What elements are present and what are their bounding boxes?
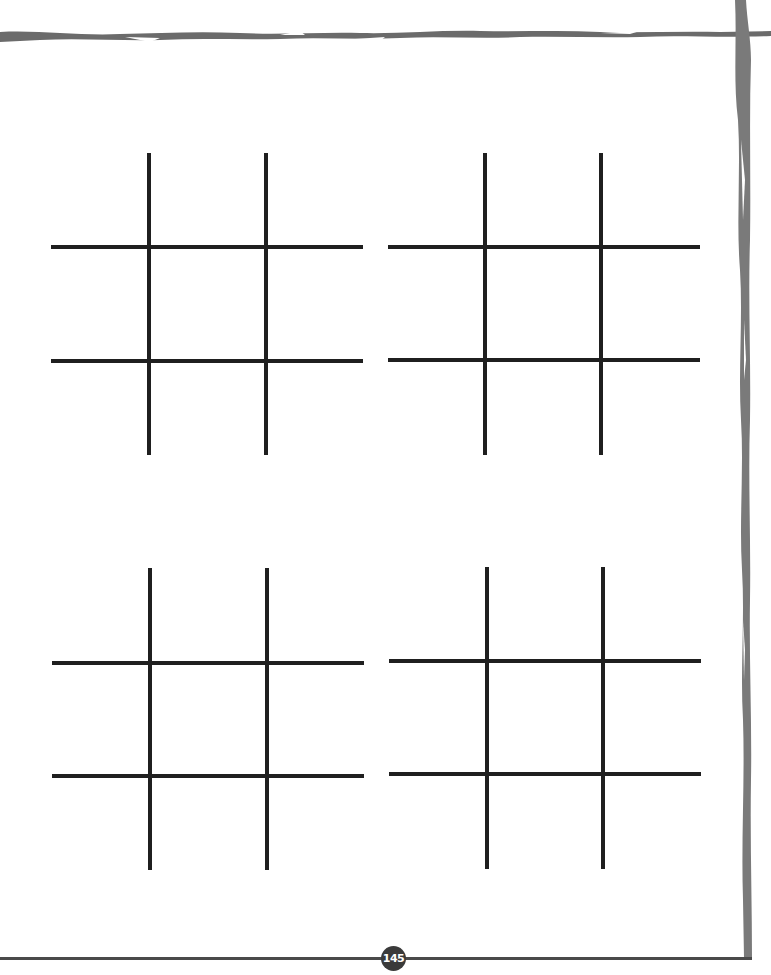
grid-line-vertical-left [483,153,487,455]
tic-tac-toe-board-1 [51,153,381,473]
grid-line-horizontal-top [52,661,364,665]
grid-line-vertical-left [147,153,151,455]
tic-tac-toe-board-4 [389,567,719,887]
grid-line-vertical-right [264,153,268,455]
top-brush-stroke [0,31,771,42]
grid-line-horizontal-top [388,245,700,249]
grid-line-vertical-left [148,568,152,870]
grid-line-horizontal-top [389,659,701,663]
grid-line-horizontal-bottom [388,358,700,362]
grid-line-vertical-left [485,567,489,869]
grid-line-horizontal-bottom [389,772,701,776]
right-brush-stroke [735,0,752,958]
tic-tac-toe-board-3 [52,568,382,888]
grid-line-vertical-right [599,153,603,455]
grid-line-horizontal-bottom [52,774,364,778]
grid-line-vertical-right [601,567,605,869]
tic-tac-toe-board-2 [388,153,718,473]
grid-line-vertical-right [265,568,269,870]
activity-page: 145 [0,0,771,975]
footer-rule [0,957,752,960]
grid-line-horizontal-top [51,245,363,249]
page-number-badge: 145 [381,946,406,971]
grid-line-horizontal-bottom [51,359,363,363]
